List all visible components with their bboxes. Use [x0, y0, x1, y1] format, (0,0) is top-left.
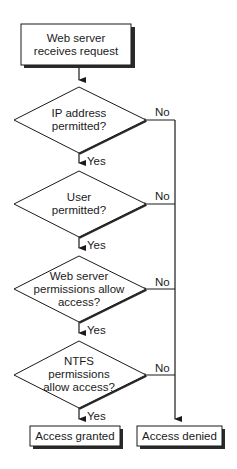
decision-1-line-1: IP address [24, 107, 134, 120]
decision-3-yes-label: Yes [87, 324, 106, 337]
decision-3-no-label: No [155, 276, 170, 289]
start-text-line-2: receives request [21, 45, 131, 58]
decision-1-text: IP address permitted? [24, 107, 134, 133]
start-text-line-1: Web server [21, 32, 131, 45]
decision-3-line-3: access? [19, 296, 139, 309]
decision-3-line-1: Web server [19, 270, 139, 283]
decision-2-line-2: permitted? [24, 204, 134, 217]
decision-4-line-3: allow access? [19, 381, 139, 394]
flowchart-canvas [0, 0, 237, 469]
decision-1-no-label: No [155, 106, 170, 119]
decision-2-yes-label: Yes [87, 239, 106, 252]
decision-3-line-2: permissions allow [19, 283, 139, 296]
decision-4-yes-label: Yes [87, 410, 106, 423]
decision-2-no-label: No [155, 190, 170, 203]
decision-1-yes-label: Yes [87, 155, 106, 168]
decision-4-line-1: NTFS [19, 355, 139, 368]
decision-2-text: User permitted? [24, 191, 134, 217]
decision-2-line-1: User [24, 191, 134, 204]
decision-4-no-label: No [155, 362, 170, 375]
decision-3-text: Web server permissions allow access? [19, 270, 139, 309]
decision-4-text: NTFS permissions allow access? [19, 355, 139, 394]
access-granted-label: Access granted [30, 430, 120, 443]
access-denied-label: Access denied [137, 430, 222, 443]
decision-1-line-2: permitted? [24, 120, 134, 133]
start-box-text: Web server receives request [21, 32, 131, 58]
decision-4-line-2: permissions [19, 368, 139, 381]
